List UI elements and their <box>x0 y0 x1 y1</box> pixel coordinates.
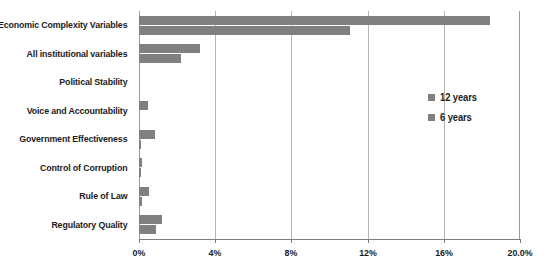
x-axis-tick <box>368 239 369 243</box>
bar[interactable] <box>139 197 142 206</box>
bar[interactable] <box>139 187 149 196</box>
x-axis-tick <box>520 239 521 243</box>
category-label: Government Effectiveness <box>9 125 133 154</box>
bar-group <box>139 211 520 240</box>
legend-swatch-icon <box>428 94 435 101</box>
x-axis-tick-label: 16% <box>435 247 453 258</box>
category-label: Economic Complexity Variables <box>9 11 133 40</box>
legend-item-12-years[interactable]: 12 years <box>428 92 479 103</box>
x-axis-tick-label: 20.0% <box>507 247 532 258</box>
x-axis-tick-label: 8% <box>285 247 298 258</box>
legend-label: 12 years <box>440 92 477 103</box>
category-axis-labels: Economic Complexity Variables All instit… <box>0 11 133 239</box>
bar[interactable] <box>139 44 200 53</box>
bar-group <box>139 40 520 69</box>
x-axis-tick <box>291 239 292 243</box>
bar[interactable] <box>139 168 141 177</box>
category-label: All institutional variables <box>9 40 133 69</box>
bar[interactable] <box>139 101 148 110</box>
bar-group <box>139 11 520 40</box>
bar[interactable] <box>139 225 156 234</box>
bar-group <box>139 182 520 211</box>
bar[interactable] <box>139 215 162 224</box>
x-axis-tick <box>444 239 445 243</box>
bar[interactable] <box>139 130 155 139</box>
bar-chart: Economic Complexity Variables All instit… <box>0 0 560 278</box>
x-axis-tick-label: 4% <box>209 247 222 258</box>
bar[interactable] <box>139 16 490 25</box>
legend-label: 6 years <box>440 112 472 123</box>
chart-legend: 12 years 6 years <box>428 92 479 132</box>
bar[interactable] <box>139 140 141 149</box>
x-axis-tick-label: 0% <box>133 247 146 258</box>
category-label: Voice and Accountability <box>9 97 133 126</box>
x-axis-tick <box>139 239 140 243</box>
bar[interactable] <box>139 158 142 167</box>
category-label: Political Stability <box>9 68 133 97</box>
bar[interactable] <box>139 54 181 63</box>
x-axis-tick <box>215 239 216 243</box>
bar-group <box>139 154 520 183</box>
legend-item-6-years[interactable]: 6 years <box>428 112 479 123</box>
x-axis-tick-label: 12% <box>359 247 377 258</box>
category-label: Control of Corruption <box>9 154 133 183</box>
legend-swatch-icon <box>428 114 435 121</box>
x-axis-line <box>139 239 520 240</box>
bar[interactable] <box>139 26 350 35</box>
category-label: Regulatory Quality <box>9 211 133 240</box>
category-label: Rule of Law <box>9 182 133 211</box>
